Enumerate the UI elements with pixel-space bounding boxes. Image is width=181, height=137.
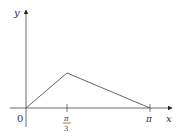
- graph-canvas: y x 0 π 3 π: [0, 0, 181, 137]
- tick-label-pi: π: [145, 114, 153, 124]
- function-curve: [26, 73, 150, 108]
- x-axis-label: x: [166, 113, 172, 124]
- function-graph-figure: y x 0 π 3 π: [0, 0, 181, 137]
- y-axis-label: y: [13, 7, 20, 18]
- origin-label: 0: [17, 113, 23, 124]
- tick-label-pi-over-3-denominator: 3: [64, 125, 68, 133]
- tick-label-pi-over-3-numerator: π: [63, 115, 69, 123]
